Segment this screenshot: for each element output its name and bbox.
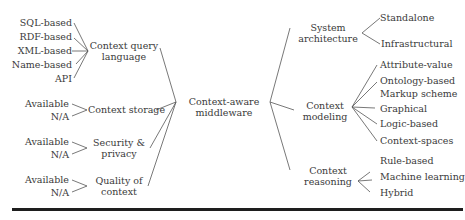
node-label-line: Context-aware [180, 96, 268, 107]
node-label-line: middleware [180, 107, 268, 118]
node-system-architecture: System architecture [296, 22, 360, 44]
leaf-security-na: N/A [51, 149, 69, 160]
leaf-logic-based: Logic-based [380, 118, 438, 129]
leaf-quality-available: Available [25, 174, 69, 185]
node-label-line: privacy [88, 148, 150, 159]
node-context-modeling: Context modeling [300, 100, 350, 122]
leaf-markup-scheme: Markup scheme [380, 88, 457, 99]
leaf-infrastructural: Infrastructural [381, 38, 452, 49]
node-context-query-language: Context query language [88, 40, 160, 62]
node-label-line: language [88, 51, 160, 62]
leaf-storage-available: Available [25, 98, 69, 109]
node-label-line: Security & [88, 137, 150, 148]
node-label-line: modeling [300, 111, 350, 122]
middleware-taxonomy-diagram: SQL-based RDF-based XML-based Name-based… [0, 0, 465, 220]
leaf-api: API [55, 73, 72, 84]
node-label-line: Quality of [88, 175, 150, 186]
node-label-line: context [88, 186, 150, 197]
node-label-line: System [296, 22, 360, 33]
node-label-line: Context query [88, 40, 160, 51]
leaf-rdf-based: RDF-based [20, 31, 72, 42]
leaf-hybrid: Hybrid [380, 187, 413, 198]
leaf-storage-na: N/A [51, 111, 69, 122]
leaf-xml-based: XML-based [18, 45, 72, 56]
node-label-line: reasoning [300, 176, 356, 187]
node-context-reasoning: Context reasoning [300, 165, 356, 187]
leaf-standalone: Standalone [380, 12, 434, 23]
leaf-security-available: Available [25, 136, 69, 147]
node-label-line: architecture [296, 33, 360, 44]
bottom-rule-divider [12, 208, 463, 211]
node-quality-of-context: Quality of context [88, 175, 150, 197]
node-context-storage: Context storage [88, 104, 165, 115]
node-root-context-aware-middleware: Context-aware middleware [180, 96, 268, 118]
leaf-quality-na: N/A [51, 187, 69, 198]
leaf-attribute-value: Attribute-value [380, 59, 453, 70]
node-label-line: Context [300, 165, 356, 176]
node-security-privacy: Security & privacy [88, 137, 150, 159]
leaf-graphical: Graphical [380, 103, 427, 114]
leaf-ontology-based: Ontology-based [380, 75, 455, 86]
leaf-rule-based: Rule-based [380, 155, 433, 166]
leaf-sql-based: SQL-based [20, 17, 72, 28]
node-label-line: Context [300, 100, 350, 111]
leaf-name-based: Name-based [12, 59, 72, 70]
leaf-machine-learning: Machine learning [380, 171, 465, 182]
leaf-context-spaces: Context-spaces [380, 135, 453, 146]
